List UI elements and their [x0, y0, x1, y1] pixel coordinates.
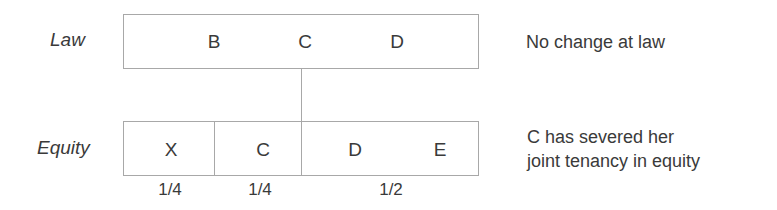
law-note: No change at law — [526, 30, 665, 54]
equity-note: C has severed her joint tenancy in equit… — [527, 125, 700, 173]
equity-holder-x: X — [165, 139, 178, 161]
equity-row-label: Equity — [37, 137, 90, 159]
law-holder-b: B — [208, 31, 221, 53]
connector-line — [301, 68, 302, 122]
equity-holder-d: D — [348, 139, 362, 161]
equity-note-line-2: joint tenancy in equity — [527, 149, 700, 173]
equity-holder-e: E — [434, 139, 447, 161]
law-holder-d: D — [390, 31, 404, 53]
equity-note-line-1: C has severed her — [527, 125, 700, 149]
equity-box: X C D E — [123, 121, 479, 176]
law-holder-c: C — [298, 31, 312, 53]
share-x: 1/4 — [158, 180, 182, 200]
law-box: B C D — [123, 14, 479, 69]
equity-divider-1 — [214, 122, 215, 175]
share-c: 1/4 — [248, 180, 272, 200]
share-d-e: 1/2 — [379, 180, 403, 200]
equity-holder-c: C — [256, 139, 270, 161]
law-row-label: Law — [50, 29, 85, 51]
equity-divider-2 — [301, 122, 302, 175]
